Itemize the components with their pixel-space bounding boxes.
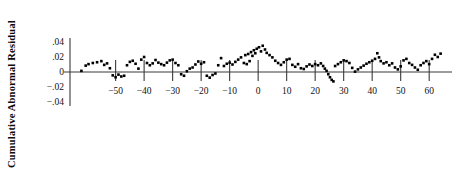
data-point: [96, 61, 99, 64]
data-point: [376, 52, 379, 55]
x-tick-label: 40: [367, 86, 377, 96]
data-point: [385, 61, 388, 64]
data-point: [280, 64, 283, 67]
data-point: [234, 61, 237, 64]
data-point: [337, 63, 340, 66]
data-point: [399, 65, 402, 68]
x-tick-label: −50: [108, 86, 123, 96]
data-point: [111, 74, 114, 77]
data-point: [146, 62, 149, 65]
data-point: [268, 54, 271, 57]
data-point: [206, 74, 209, 77]
data-point: [180, 73, 183, 76]
data-point: [131, 59, 134, 62]
data-point: [251, 55, 254, 58]
data-point: [388, 64, 391, 67]
data-point: [359, 66, 362, 69]
x-tick-label: −30: [165, 86, 180, 96]
data-point: [197, 60, 200, 63]
data-point: [297, 63, 300, 66]
data-point: [271, 56, 274, 59]
data-point: [320, 62, 323, 65]
data-point: [186, 70, 189, 73]
data-point: [84, 64, 87, 67]
data-point: [308, 63, 311, 66]
data-point: [325, 70, 328, 73]
data-point: [188, 67, 191, 70]
data-point: [305, 65, 308, 68]
y-axis-title-container: Cumulative Abnormal Residual: [0, 0, 22, 188]
data-point: [203, 61, 206, 64]
x-tick-label: 20: [310, 86, 320, 96]
data-point: [240, 56, 243, 59]
data-point: [223, 65, 226, 68]
data-point: [340, 61, 343, 64]
data-point: [140, 58, 143, 61]
y-tick-label-group: .04.020−.02−.04: [47, 37, 64, 107]
data-point: [317, 64, 320, 67]
data-point: [428, 63, 431, 66]
data-point: [157, 61, 160, 64]
x-tick-label: 10: [282, 86, 292, 96]
data-point: [109, 67, 112, 70]
data-point: [300, 67, 303, 70]
data-point: [371, 59, 374, 62]
data-point: [114, 76, 117, 79]
data-point: [100, 60, 103, 63]
data-point: [285, 58, 288, 61]
data-point: [414, 66, 417, 69]
data-point: [160, 63, 163, 66]
data-point: [329, 76, 332, 79]
data-point: [397, 68, 400, 71]
data-point: [248, 60, 251, 63]
data-point: [379, 60, 382, 63]
y-axis-title: Cumulative Abnormal Residual: [6, 20, 17, 168]
data-point: [261, 44, 264, 47]
data-point: [250, 51, 253, 54]
data-point: [151, 62, 154, 65]
data-point: [106, 62, 109, 65]
data-point: [120, 75, 123, 78]
data-point: [92, 62, 95, 65]
data-point: [436, 56, 439, 59]
data-point: [382, 62, 385, 65]
data-point: [351, 67, 354, 70]
data-point: [237, 58, 240, 61]
y-tick-label: 0: [59, 67, 64, 77]
data-point: [177, 64, 180, 67]
data-point: [408, 62, 411, 65]
data-point: [322, 65, 325, 68]
y-tick-label: .04: [52, 37, 64, 47]
x-tick-label-group: −50−40−30−20−100102030405060: [108, 86, 434, 96]
data-point: [311, 65, 314, 68]
data-point: [163, 64, 166, 67]
data-point: [411, 64, 414, 67]
data-point: [357, 68, 360, 71]
data-point: [244, 54, 247, 57]
data-point: [255, 47, 258, 50]
data-point: [365, 62, 368, 65]
data-point: [288, 58, 291, 61]
data-point: [143, 56, 146, 59]
data-point: [225, 62, 228, 65]
data-point: [166, 61, 169, 64]
data-point: [117, 73, 120, 76]
data-point: [362, 64, 365, 67]
data-point: [183, 74, 186, 77]
data-point: [277, 62, 280, 65]
data-point: [220, 57, 223, 60]
data-point: [291, 64, 294, 67]
y-tick-label: −.02: [47, 82, 64, 92]
data-point: [402, 59, 405, 62]
data-point: [171, 58, 174, 61]
data-point: [245, 63, 248, 66]
data-point: [422, 62, 425, 65]
data-point: [154, 59, 157, 62]
data-point-group: [80, 44, 442, 82]
data-point: [324, 67, 327, 70]
data-point: [314, 63, 317, 66]
data-point: [439, 52, 442, 55]
x-tick-label: 50: [396, 86, 406, 96]
data-point: [134, 62, 137, 65]
data-point: [294, 65, 297, 68]
